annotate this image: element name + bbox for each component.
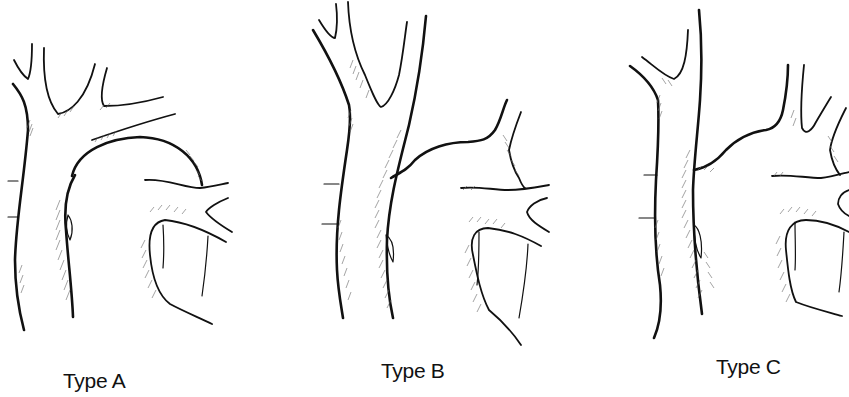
- vessel-drawing-type-a: [0, 0, 283, 397]
- panel-label-type-b: Type B: [381, 359, 445, 383]
- panel-type-c: Type C: [566, 0, 849, 397]
- vessel-drawing-type-b: [283, 0, 566, 397]
- vessel-drawing-type-c: [566, 0, 849, 397]
- panel-type-a: Type A: [0, 0, 283, 397]
- panel-type-b: Type B: [283, 0, 566, 397]
- panel-label-type-a: Type A: [63, 369, 125, 393]
- panel-label-type-c: Type C: [716, 355, 781, 379]
